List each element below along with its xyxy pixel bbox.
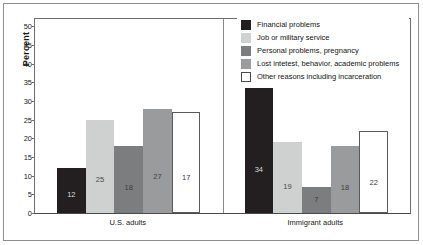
group-divider xyxy=(223,19,224,213)
bar: 18 xyxy=(114,146,143,213)
chart-legend: Financial problemsJob or military servic… xyxy=(237,16,409,88)
bar-value-label: 27 xyxy=(144,172,171,181)
bar-value-label: 18 xyxy=(115,183,142,192)
y-tick-label: 30 xyxy=(16,97,32,106)
y-tick-label: 40 xyxy=(16,59,32,68)
y-tick-label: 25 xyxy=(16,115,32,124)
y-tick-label: 35 xyxy=(16,78,32,87)
bar: 22 xyxy=(359,131,388,213)
x-axis-group-label: U.S. adults xyxy=(109,218,146,227)
figure-frame: Percent 05101520253035404550 12251827173… xyxy=(3,3,419,241)
bar-value-label: 19 xyxy=(274,182,301,191)
bar: 19 xyxy=(273,142,302,213)
y-tick-label: 5 xyxy=(16,190,32,199)
legend-swatch-icon xyxy=(241,33,251,43)
legend-swatch-icon xyxy=(241,72,251,82)
legend-swatch-icon xyxy=(241,20,251,30)
legend-item-label: Lost intetest, behavior, academic proble… xyxy=(257,59,399,69)
bar: 12 xyxy=(57,168,86,213)
bar: 25 xyxy=(86,120,115,213)
chart-screenshot: Percent 05101520253035404550 12251827173… xyxy=(0,0,423,245)
bar-value-label: 18 xyxy=(332,183,359,192)
legend-swatch-icon xyxy=(241,59,251,69)
legend-item[interactable]: Personal problems, pregnancy xyxy=(241,45,405,57)
bar: 7 xyxy=(302,187,331,213)
legend-item[interactable]: Other reasons including incarceration xyxy=(241,71,405,83)
legend-item-label: Job or military service xyxy=(257,33,330,43)
y-tick-label: 50 xyxy=(16,22,32,31)
bar-value-label: 34 xyxy=(246,165,273,174)
legend-item[interactable]: Job or military service xyxy=(241,32,405,44)
bar-value-label: 22 xyxy=(360,178,387,187)
legend-item[interactable]: Lost intetest, behavior, academic proble… xyxy=(241,58,405,70)
bar: 34 xyxy=(245,86,274,213)
bar-value-label: 12 xyxy=(58,190,85,199)
bar-value-label: 25 xyxy=(87,175,114,184)
legend-swatch-icon xyxy=(241,46,251,56)
bar-value-label: 17 xyxy=(173,173,200,182)
x-axis-group-label: Immigrant adults xyxy=(288,218,343,227)
legend-item-label: Personal problems, pregnancy xyxy=(257,46,359,56)
y-tick-label: 10 xyxy=(16,171,32,180)
y-tick-label: 20 xyxy=(16,134,32,143)
y-tick-label: 15 xyxy=(16,153,32,162)
bar: 17 xyxy=(172,112,201,213)
legend-item-label: Other reasons including incarceration xyxy=(257,72,381,82)
bar-value-label: 7 xyxy=(303,195,330,204)
y-tick-label: 45 xyxy=(16,41,32,50)
bar: 27 xyxy=(143,109,172,213)
y-axis-ticks: 05101520253035404550 xyxy=(12,18,32,214)
y-tick-label: 0 xyxy=(16,209,32,218)
bar: 18 xyxy=(331,146,360,213)
legend-item-label: Financial problems xyxy=(257,20,320,30)
legend-item[interactable]: Financial problems xyxy=(241,19,405,31)
